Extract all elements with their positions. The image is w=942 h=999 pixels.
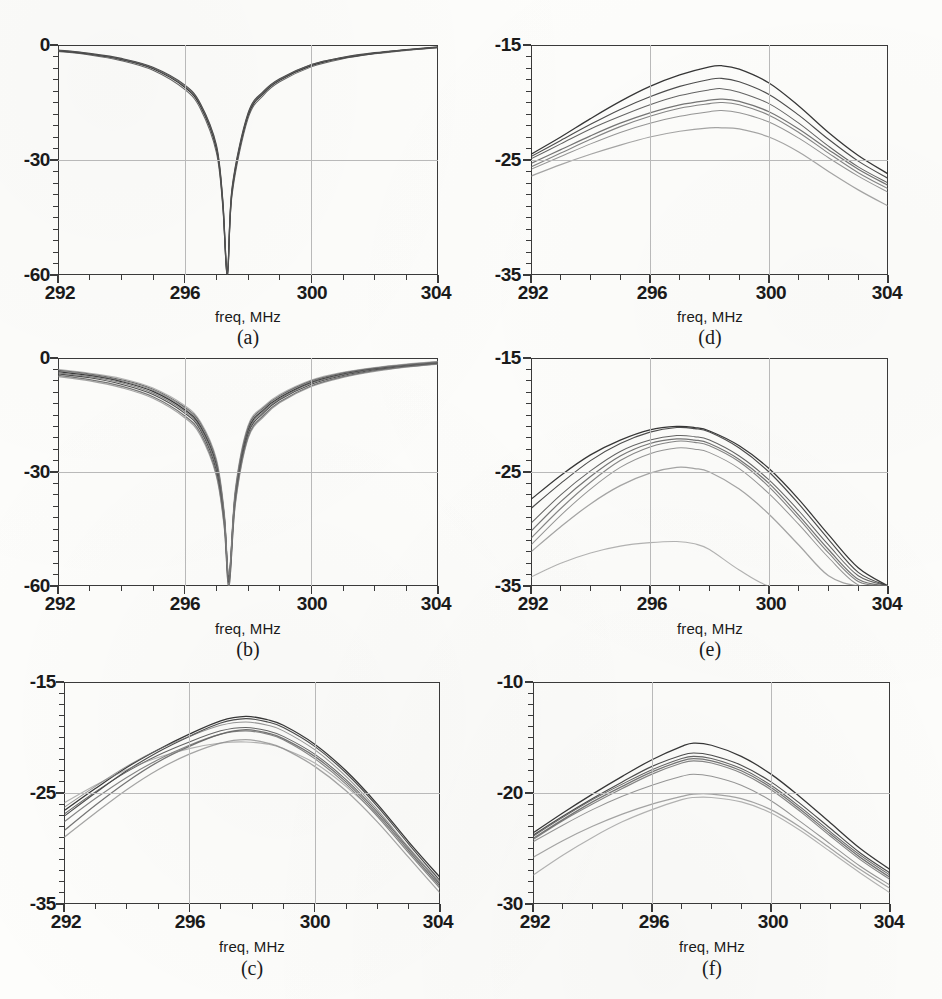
y-tick-label-a-0: 0 bbox=[10, 34, 50, 56]
y-axis-tick-minor bbox=[526, 437, 531, 438]
panel-d: -15 -25 -35 292 296 300 304 freq, MHz (d… bbox=[471, 20, 942, 340]
y-axis-tick-minor bbox=[53, 449, 58, 450]
y-axis-tick-minor bbox=[528, 748, 533, 749]
y-axis-tick-minor bbox=[53, 56, 58, 57]
x-axis-tick-minor bbox=[709, 586, 710, 591]
x-axis-tick-minor bbox=[709, 275, 710, 280]
x-axis-tick-minor bbox=[798, 586, 799, 591]
y-axis-tick-minor bbox=[53, 403, 58, 404]
data-curve bbox=[58, 362, 438, 578]
gridline-horizontal bbox=[58, 160, 438, 161]
y-axis-tick-minor bbox=[526, 540, 531, 541]
y-axis-tick-minor bbox=[53, 574, 58, 575]
y-tick-label-b-1: -30 bbox=[10, 461, 50, 483]
data-curve bbox=[531, 427, 888, 586]
y-axis-tick-major bbox=[523, 274, 531, 275]
x-axis-tick-minor bbox=[560, 275, 561, 280]
gridline-horizontal bbox=[531, 472, 888, 473]
y-axis-tick-minor bbox=[53, 540, 58, 541]
y-axis-tick-minor bbox=[53, 529, 58, 530]
x-axis-tick-minor bbox=[216, 586, 217, 591]
y-axis-tick-minor bbox=[59, 837, 64, 838]
x-axis-title-d: freq, MHz bbox=[677, 308, 743, 325]
data-curve bbox=[531, 467, 888, 587]
y-tick-label-f-1: -20 bbox=[473, 782, 523, 804]
y-axis-tick-minor bbox=[528, 693, 533, 694]
panel-c: -15 -25 -35 292 296 300 304 freq, MHz (c… bbox=[0, 660, 471, 990]
panel-caption-c: (c) bbox=[241, 957, 263, 980]
y-axis-tick-major bbox=[525, 681, 533, 682]
y-axis-tick-minor bbox=[59, 726, 64, 727]
y-axis-tick-minor bbox=[526, 137, 531, 138]
x-axis-tick-minor bbox=[798, 275, 799, 280]
y-axis-tick-minor bbox=[53, 263, 58, 264]
y-axis-tick-minor bbox=[59, 848, 64, 849]
y-axis-tick-minor bbox=[59, 892, 64, 893]
y-axis-tick-minor bbox=[528, 859, 533, 860]
y-axis-tick-minor bbox=[53, 369, 58, 370]
x-tick-label-c-3: 304 bbox=[423, 911, 454, 933]
gridline-horizontal bbox=[531, 160, 888, 161]
x-tick-label-b-3: 304 bbox=[421, 593, 452, 615]
y-axis-tick-minor bbox=[526, 79, 531, 80]
x-axis-tick-minor bbox=[216, 275, 217, 280]
data-curve bbox=[58, 48, 438, 275]
y-axis-tick-minor bbox=[59, 881, 64, 882]
x-axis-tick-minor bbox=[252, 904, 253, 909]
y-axis-tick-minor bbox=[526, 114, 531, 115]
x-axis-tick-minor bbox=[89, 586, 90, 591]
panel-caption-b: (b) bbox=[236, 638, 259, 661]
y-tick-label-f-2: -30 bbox=[473, 893, 523, 915]
y-axis-tick-minor bbox=[53, 506, 58, 507]
y-axis-tick-minor bbox=[53, 102, 58, 103]
y-axis-tick-minor bbox=[526, 449, 531, 450]
data-curve bbox=[531, 426, 888, 586]
y-tick-label-a-1: -30 bbox=[10, 149, 50, 171]
y-axis-tick-minor bbox=[526, 240, 531, 241]
y-axis-tick-minor bbox=[53, 217, 58, 218]
y-axis-tick-minor bbox=[59, 826, 64, 827]
y-axis-tick-minor bbox=[59, 815, 64, 816]
y-tick-label-d-2: -35 bbox=[473, 264, 521, 286]
y-axis-tick-minor bbox=[59, 781, 64, 782]
plot-area-b bbox=[58, 358, 438, 586]
x-tick-label-b-2: 300 bbox=[297, 593, 328, 615]
y-axis-tick-minor bbox=[526, 380, 531, 381]
y-axis-tick-minor bbox=[528, 770, 533, 771]
x-tick-label-f-1: 296 bbox=[639, 911, 670, 933]
y-axis-tick-minor bbox=[59, 693, 64, 694]
data-curve bbox=[58, 364, 438, 586]
y-axis-tick-minor bbox=[53, 426, 58, 427]
y-axis-tick-minor bbox=[528, 848, 533, 849]
y-axis-tick-minor bbox=[526, 494, 531, 495]
y-axis-tick-minor bbox=[53, 125, 58, 126]
x-axis-title-c: freq, MHz bbox=[219, 938, 285, 955]
plot-area-f bbox=[533, 682, 890, 904]
x-axis-tick-minor bbox=[681, 904, 682, 909]
y-tick-label-c-0: -15 bbox=[6, 671, 56, 693]
x-tick-label-f-3: 304 bbox=[874, 911, 905, 933]
y-axis-tick-minor bbox=[59, 737, 64, 738]
x-axis-tick-minor bbox=[592, 904, 593, 909]
x-tick-label-c-0: 292 bbox=[51, 911, 82, 933]
x-tick-label-b-1: 296 bbox=[170, 593, 201, 615]
x-tick-label-f-0: 292 bbox=[520, 911, 551, 933]
y-axis-tick-minor bbox=[53, 415, 58, 416]
y-axis-tick-minor bbox=[528, 737, 533, 738]
x-axis-tick-minor bbox=[279, 275, 280, 280]
figure-panel-grid: 0 -30 -60 292 296 300 304 freq, MHz (a) … bbox=[0, 0, 942, 999]
y-axis-tick-minor bbox=[526, 229, 531, 230]
x-tick-label-e-0: 292 bbox=[518, 593, 549, 615]
y-axis-tick-minor bbox=[528, 726, 533, 727]
x-axis-title-b: freq, MHz bbox=[215, 620, 281, 637]
x-axis-tick-minor bbox=[858, 586, 859, 591]
y-axis-tick-minor bbox=[59, 704, 64, 705]
panel-caption-e: (e) bbox=[699, 638, 721, 661]
y-axis-tick-minor bbox=[528, 804, 533, 805]
y-axis-tick-minor bbox=[59, 715, 64, 716]
x-axis-tick-minor bbox=[622, 904, 623, 909]
y-tick-label-d-1: -25 bbox=[473, 149, 521, 171]
data-curve bbox=[58, 361, 438, 574]
y-axis-tick-minor bbox=[526, 217, 531, 218]
y-axis-tick-minor bbox=[526, 194, 531, 195]
